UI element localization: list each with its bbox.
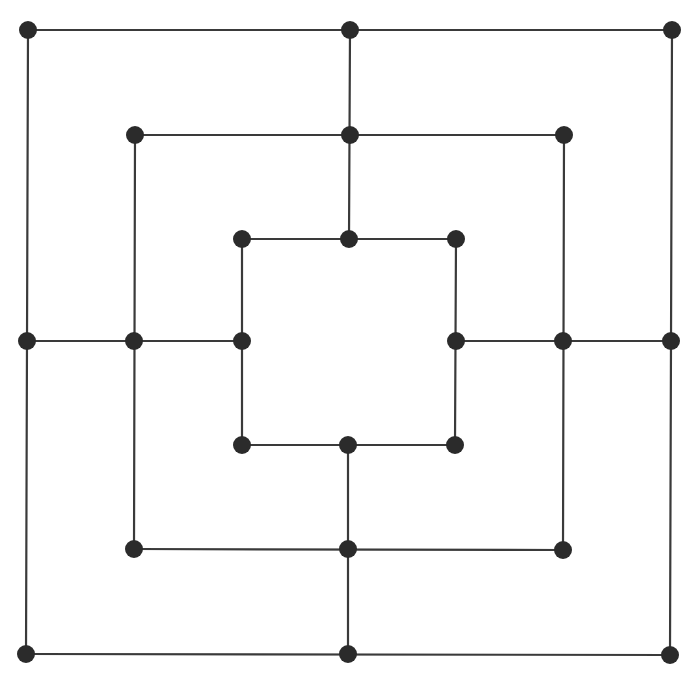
board-point-inner-bottom-middle[interactable] <box>339 436 357 454</box>
board-point-inner-bottom-left[interactable] <box>233 436 251 454</box>
board-point-outer-top-left[interactable] <box>19 21 37 39</box>
board-point-inner-top-left[interactable] <box>233 230 251 248</box>
board-lines <box>26 30 672 655</box>
board-point-outer-bottom-right[interactable] <box>661 646 679 664</box>
board-point-outer-bottom-left[interactable] <box>17 645 35 663</box>
morris-board <box>0 0 698 679</box>
board-point-middle-bottom-right[interactable] <box>554 541 572 559</box>
board-point-inner-middle-left[interactable] <box>233 332 251 350</box>
board-point-middle-top-middle[interactable] <box>341 126 359 144</box>
board-point-inner-top-right[interactable] <box>447 230 465 248</box>
board-point-middle-bottom-middle[interactable] <box>339 540 357 558</box>
board-point-outer-bottom-middle[interactable] <box>339 645 357 663</box>
board-point-inner-middle-right[interactable] <box>447 332 465 350</box>
board-point-inner-bottom-right[interactable] <box>446 436 464 454</box>
board-point-middle-top-right[interactable] <box>555 126 573 144</box>
board-point-middle-bottom-left[interactable] <box>125 540 143 558</box>
board-point-middle-middle-right[interactable] <box>554 332 572 350</box>
board-point-outer-top-middle[interactable] <box>341 21 359 39</box>
board-point-outer-middle-left[interactable] <box>18 332 36 350</box>
board-point-middle-middle-left[interactable] <box>125 332 143 350</box>
board-point-outer-top-right[interactable] <box>663 21 681 39</box>
board-point-outer-middle-right[interactable] <box>662 332 680 350</box>
board-point-inner-top-middle[interactable] <box>340 230 358 248</box>
board-point-middle-top-left[interactable] <box>126 126 144 144</box>
